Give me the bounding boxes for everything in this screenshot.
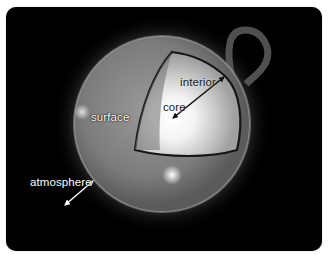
label-surface: surface xyxy=(91,111,129,124)
label-core: core xyxy=(163,101,186,114)
label-atmosphere: atmosphere xyxy=(30,176,92,189)
sun-illustration xyxy=(6,7,322,251)
label-interior: interior xyxy=(180,76,216,89)
diagram-frame: interior core surface atmosphere xyxy=(6,7,322,251)
bright-spot xyxy=(162,165,182,185)
